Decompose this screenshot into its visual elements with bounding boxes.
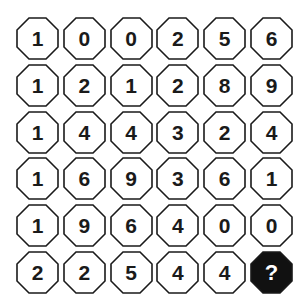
cell-number: 2 (63, 64, 106, 107)
mystery-cell: ? (250, 251, 293, 294)
cell-number: 1 (16, 157, 59, 200)
cell-number: 2 (156, 17, 199, 60)
cell-number: 6 (63, 157, 106, 200)
number-cell: 0 (250, 204, 293, 247)
number-cell: 1 (16, 157, 59, 200)
number-cell: 6 (63, 157, 106, 200)
number-cell: 1 (16, 204, 59, 247)
number-cell: 1 (16, 111, 59, 154)
cell-number: 1 (16, 17, 59, 60)
number-cell: 1 (16, 17, 59, 60)
number-cell: 3 (156, 157, 199, 200)
number-cell: 6 (110, 204, 153, 247)
number-cell: 1 (110, 64, 153, 107)
cell-number: 0 (203, 204, 246, 247)
cell-number: 3 (156, 157, 199, 200)
number-cell: 4 (63, 111, 106, 154)
cell-number: 3 (156, 111, 199, 154)
number-cell: 0 (203, 204, 246, 247)
cell-number: 1 (16, 111, 59, 154)
number-cell: 0 (63, 17, 106, 60)
cell-number: 9 (110, 157, 153, 200)
cell-number: 6 (203, 157, 246, 200)
number-cell: 9 (110, 157, 153, 200)
number-cell: 4 (156, 204, 199, 247)
number-cell: 2 (16, 251, 59, 294)
number-cell: 2 (156, 17, 199, 60)
number-cell: 8 (203, 64, 246, 107)
cell-number: 4 (203, 251, 246, 294)
number-cell: 2 (156, 64, 199, 107)
cell-number: 0 (110, 17, 153, 60)
cell-number: 2 (203, 111, 246, 154)
number-cell: 4 (203, 251, 246, 294)
cell-number: 1 (110, 64, 153, 107)
number-cell: 3 (156, 111, 199, 154)
number-cell: 6 (203, 157, 246, 200)
number-cell: 6 (250, 17, 293, 60)
cell-number: 0 (250, 204, 293, 247)
cell-number: 8 (203, 64, 246, 107)
number-cell: 1 (16, 64, 59, 107)
cell-number: 5 (110, 251, 153, 294)
number-cell: 9 (250, 64, 293, 107)
number-cell: 4 (250, 111, 293, 154)
number-cell: 5 (110, 251, 153, 294)
cell-number: 4 (156, 251, 199, 294)
cell-number: 2 (156, 64, 199, 107)
question-mark-label: ? (250, 251, 293, 294)
cell-number: 5 (203, 17, 246, 60)
cell-number: 4 (250, 111, 293, 154)
cell-number: 9 (250, 64, 293, 107)
cell-number: 0 (63, 17, 106, 60)
number-cell: 9 (63, 204, 106, 247)
number-cell: 2 (63, 251, 106, 294)
cell-number: 6 (110, 204, 153, 247)
cell-number: 6 (250, 17, 293, 60)
cell-number: 4 (110, 111, 153, 154)
number-cell: 4 (156, 251, 199, 294)
number-puzzle-grid: 10025612128914432416936119640022544? (16, 17, 293, 294)
number-cell: 4 (110, 111, 153, 154)
number-cell: 2 (63, 64, 106, 107)
cell-number: 1 (16, 204, 59, 247)
number-cell: 2 (203, 111, 246, 154)
cell-number: 2 (63, 251, 106, 294)
cell-number: 9 (63, 204, 106, 247)
cell-number: 1 (16, 64, 59, 107)
cell-number: 4 (63, 111, 106, 154)
cell-number: 2 (16, 251, 59, 294)
number-cell: 0 (110, 17, 153, 60)
number-cell: 5 (203, 17, 246, 60)
cell-number: 4 (156, 204, 199, 247)
cell-number: 1 (250, 157, 293, 200)
number-cell: 1 (250, 157, 293, 200)
